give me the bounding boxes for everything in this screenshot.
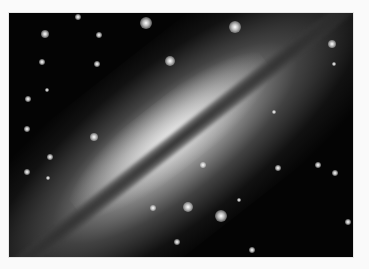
star [174,239,180,245]
star [237,198,241,202]
star [150,205,156,211]
star [39,59,45,65]
star [315,162,321,168]
star [140,17,152,29]
star [75,14,81,20]
star [215,210,227,222]
star [332,170,338,176]
star [45,88,49,92]
star [24,169,30,175]
star [272,110,276,114]
star [41,30,49,38]
star [96,32,102,38]
star [183,202,193,212]
star [328,40,336,48]
star [165,56,175,66]
star [345,219,351,225]
star [24,126,30,132]
star [200,162,206,168]
star [25,96,31,102]
star [46,176,50,180]
star [47,154,53,160]
star [275,165,281,171]
star [332,62,336,66]
galaxy-photo [9,13,353,257]
star [90,133,98,141]
star [249,247,255,253]
star [229,21,241,33]
star [94,61,100,67]
